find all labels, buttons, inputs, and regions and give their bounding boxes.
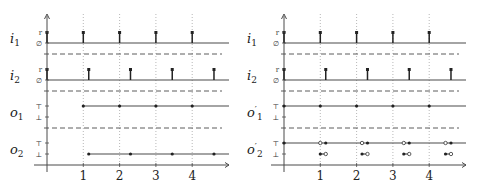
level-low-label: ∅ — [36, 77, 42, 85]
o2-open-point — [324, 152, 327, 155]
o1-point — [428, 104, 431, 107]
tick-label: 1 — [79, 169, 87, 183]
i1-pulse-head — [391, 31, 394, 34]
o2-filled-point — [366, 141, 369, 144]
o1-point — [319, 104, 322, 107]
o2-point — [129, 152, 132, 155]
right-panel: 1234i1r∅i2r∅o′1⊤⊥o′2⊤⊥ — [247, 14, 466, 183]
i2-pulse-head — [171, 68, 174, 71]
level-low-label: ⊥ — [272, 114, 279, 122]
signal-label-i1: i1 — [247, 31, 257, 48]
o2-filled-point — [282, 141, 285, 144]
o1-point — [391, 104, 394, 107]
level-low-label: ∅ — [273, 40, 279, 48]
o2-filled-point — [319, 152, 322, 155]
i1-pulse-head — [355, 31, 358, 34]
o1-point — [118, 104, 121, 107]
i2-pulse-head — [408, 68, 411, 71]
i2-pulse-head — [212, 68, 215, 71]
i2-pulse-head — [449, 68, 452, 71]
signal-label-o2: o2 — [10, 142, 24, 159]
o2-point — [87, 152, 90, 155]
level-low-label: ⊥ — [272, 151, 279, 159]
signal-label-o1: o′1 — [247, 105, 263, 122]
i2-pulse-head — [129, 68, 132, 71]
signal-label-o1: o1 — [10, 105, 24, 122]
level-high-label: r — [276, 66, 280, 74]
o2-open-point — [408, 152, 411, 155]
i1-pulse-head — [283, 31, 286, 34]
tick-label: 4 — [188, 169, 196, 183]
tick-label: 2 — [353, 169, 361, 183]
o1-point — [154, 104, 157, 107]
level-high-label: r — [39, 66, 43, 74]
o2-filled-point — [402, 152, 405, 155]
i2-pulse-head — [46, 68, 49, 71]
o2-open-point — [449, 152, 452, 155]
i1-pulse-head — [154, 31, 157, 34]
level-high-label: ⊤ — [272, 140, 279, 148]
o2-filled-point — [360, 152, 363, 155]
i1-pulse-head — [428, 31, 431, 34]
o1-point — [355, 104, 358, 107]
level-high-label: r — [39, 29, 43, 37]
signal-label-i1: i1 — [10, 31, 20, 48]
o2-filled-point — [449, 141, 452, 144]
tick-label: 2 — [116, 169, 124, 183]
i2-pulse-head — [87, 68, 90, 71]
tick-label: 3 — [152, 169, 160, 183]
o1-point — [82, 104, 85, 107]
signal-label-i2: i2 — [247, 68, 257, 85]
o2-point — [212, 152, 215, 155]
o2-filled-point — [408, 141, 411, 144]
o1-point — [282, 104, 285, 107]
tick-label: 3 — [389, 169, 397, 183]
i2-pulse-head — [283, 68, 286, 71]
i2-pulse-head — [366, 68, 369, 71]
level-low-label: ∅ — [36, 40, 42, 48]
o2-open-point — [366, 152, 369, 155]
i1-pulse-head — [191, 31, 194, 34]
o2-open-point — [444, 141, 447, 144]
i1-pulse-head — [118, 31, 121, 34]
level-low-label: ⊥ — [35, 151, 42, 159]
o2-open-point — [319, 141, 322, 144]
level-low-label: ⊥ — [35, 114, 42, 122]
o2-filled-point — [444, 152, 447, 155]
o2-point — [171, 152, 174, 155]
o2-filled-point — [324, 141, 327, 144]
level-low-label: ∅ — [273, 77, 279, 85]
i1-pulse-head — [319, 31, 322, 34]
level-high-label: r — [276, 29, 280, 37]
o2-open-point — [402, 141, 405, 144]
signal-label-o2: o′2 — [247, 142, 263, 159]
o2-open-point — [360, 141, 363, 144]
left-panel: 1234i1r∅i2r∅o1⊤⊥o2⊤⊥ — [10, 14, 229, 183]
i1-pulse-head — [82, 31, 85, 34]
signal-label-i2: i2 — [10, 68, 20, 85]
level-high-label: ⊤ — [35, 103, 42, 111]
tick-label: 4 — [425, 169, 433, 183]
level-high-label: ⊤ — [272, 103, 279, 111]
tick-label: 1 — [316, 169, 324, 183]
i1-pulse-head — [46, 31, 49, 34]
i2-pulse-head — [324, 68, 327, 71]
o1-point — [191, 104, 194, 107]
level-high-label: ⊤ — [35, 140, 42, 148]
timing-diagram: 1234i1r∅i2r∅o1⊤⊥o2⊤⊥1234i1r∅i2r∅o′1⊤⊥o′2… — [0, 0, 491, 189]
